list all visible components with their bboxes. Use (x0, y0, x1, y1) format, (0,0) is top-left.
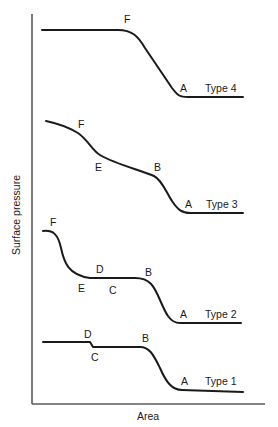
type-3-point-f: F (78, 118, 84, 130)
type-2-point-d: D (96, 263, 104, 275)
x-axis-label: Area (137, 410, 159, 422)
curve-type-1: D C B A Type 1 (43, 328, 243, 392)
surface-pressure-area-diagram: Area Surface pressure F A Type 4 F E B A… (0, 0, 278, 427)
y-axis-label: Surface pressure (10, 175, 22, 255)
type-3-point-e: E (95, 161, 102, 173)
type-1-point-c: C (91, 351, 99, 363)
type-3-label: Type 3 (206, 198, 238, 210)
type-2-point-b: B (145, 266, 152, 278)
type-2-point-e: E (78, 282, 85, 294)
type-1-label: Type 1 (205, 375, 237, 387)
curve-type-2: F E D C B A Type 2 (43, 216, 241, 323)
axes: Area Surface pressure (10, 14, 265, 422)
curve-type-3: F E B A Type 3 (46, 118, 243, 213)
type-3-point-b: B (154, 161, 161, 173)
type-2-label: Type 2 (205, 308, 237, 320)
type-2-point-c: C (109, 284, 117, 296)
type-1-point-a: A (181, 375, 188, 387)
type-2-point-a: A (180, 308, 187, 320)
type-1-point-b: B (142, 332, 149, 344)
type-4-label: Type 4 (205, 82, 237, 94)
type-4-point-f: F (124, 13, 130, 25)
type-1-point-d: D (84, 328, 92, 340)
type-4-point-a: A (180, 82, 187, 94)
type-3-point-a: A (185, 198, 192, 210)
type-2-point-f: F (50, 216, 56, 228)
curve-type-4: F A Type 4 (42, 13, 243, 97)
